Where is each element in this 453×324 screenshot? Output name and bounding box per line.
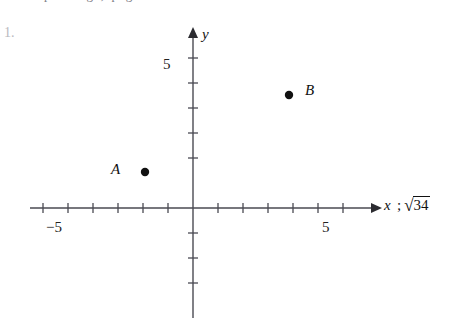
coordinate-plane	[0, 0, 453, 324]
x-axis-tick-label-5: 5	[322, 219, 330, 236]
data-point-b	[285, 91, 293, 99]
y-axis-arrowhead	[188, 27, 198, 38]
point-label-a: A	[111, 161, 120, 178]
y-axis-tick-label-5: 5	[163, 56, 171, 73]
point-label-b: B	[305, 82, 314, 99]
radicand: 34	[413, 196, 430, 213]
x-axis-annotation: ;√34	[397, 196, 430, 216]
y-axis-label: y	[202, 26, 209, 43]
axes-group	[30, 37, 372, 318]
x-axis-label: x	[384, 197, 391, 214]
x-axis-tick-label-neg-5: −5	[46, 219, 62, 236]
x-axis-arrowhead	[371, 203, 382, 213]
semicolon-separator: ;	[397, 197, 401, 213]
worksheet-screenshot: p tt t g , p g 1.	[0, 0, 453, 324]
square-root-expression: √34	[404, 196, 429, 216]
data-point-a	[141, 168, 149, 176]
